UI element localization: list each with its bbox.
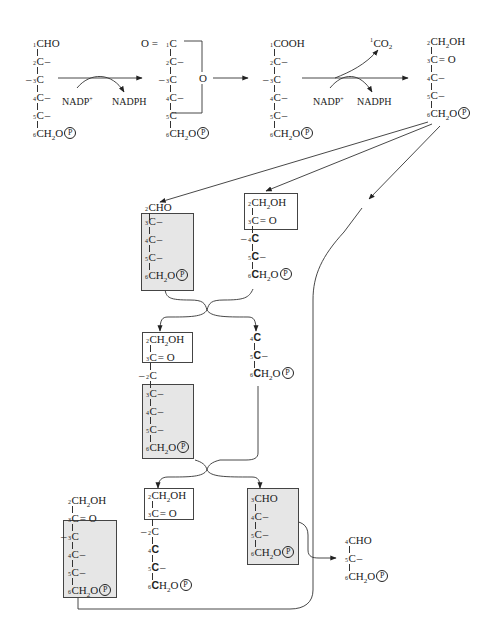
atom-group: C xyxy=(149,234,156,245)
atom-group: C xyxy=(431,90,438,101)
atom-group: COOH xyxy=(274,38,305,49)
carbon-number: 2 xyxy=(68,499,71,505)
bond-dash: – xyxy=(139,370,145,381)
atom-group: OH xyxy=(170,490,186,501)
brace-1-right-arrow xyxy=(207,310,256,331)
atom-group: O xyxy=(167,270,175,281)
carbonyl: = O xyxy=(160,508,177,519)
bond-dash: – xyxy=(282,56,288,67)
transaldolase-brace-2 xyxy=(195,460,220,470)
ribulose-5-phosphate: 2CH2OH 3C= O 4C– 5C– 6CH2OP xyxy=(427,36,470,119)
atom-group: CH xyxy=(149,270,164,281)
carbon-number: 6 xyxy=(145,274,148,280)
subscript: 2 xyxy=(165,449,169,455)
carbon-number: 6 xyxy=(251,551,254,557)
6-phosphoglucono-lactone: O = 1C 2C– –3C 4C– 5C 6CH2OP xyxy=(166,38,209,139)
carbon-number: 2 xyxy=(33,60,36,66)
carbon-number: 2 xyxy=(146,338,149,344)
long-return-path xyxy=(78,208,362,609)
bond-dash: – xyxy=(439,90,445,101)
atom-group: CHO xyxy=(149,202,172,213)
carbon-number: 2 xyxy=(145,206,148,212)
atom-group: C xyxy=(37,74,44,85)
carbon-number: 2 xyxy=(148,530,151,536)
subscript: 2 xyxy=(267,276,271,282)
bond-dash: – xyxy=(263,529,269,540)
atom-group: CH xyxy=(72,585,87,596)
nadp-curve-1 xyxy=(77,76,124,92)
atom-group: C xyxy=(254,368,262,379)
atom-group: CHO xyxy=(255,493,278,504)
carbon-number: 5 xyxy=(250,354,253,360)
bond-dash: – xyxy=(157,252,163,263)
carbon-number: 4 xyxy=(146,410,149,416)
bond-dash: – xyxy=(160,562,166,573)
bond-dash: – xyxy=(262,350,268,361)
atom-group: CHO xyxy=(349,535,372,546)
bond-dash: – xyxy=(158,424,164,435)
atom-group: C xyxy=(170,56,177,67)
phosphate-icon: P xyxy=(458,107,470,119)
atom-group: OH xyxy=(449,36,465,47)
atom-group: O xyxy=(273,368,281,379)
carbon-number: 3 xyxy=(270,78,273,84)
carbon-number: 1 xyxy=(166,42,169,48)
carbon-number: 2 xyxy=(427,40,430,46)
phosphate-icon: P xyxy=(99,584,111,596)
atom-group: C xyxy=(170,92,177,103)
carbon-number: 4 xyxy=(251,515,254,521)
ring-oxygen-label: O xyxy=(198,73,208,83)
atom-group: OH xyxy=(90,495,106,506)
atom-group: C xyxy=(252,269,260,280)
subscript: 2 xyxy=(269,375,273,381)
carbon-number: 6 xyxy=(33,132,36,138)
atom-group: O xyxy=(367,571,375,582)
carbon-number: 3 xyxy=(68,535,71,541)
ketose-c5: 2CH2OH 3C= O –4C 5C– 6CH2OP xyxy=(248,197,292,280)
bond-dash: – xyxy=(45,92,51,103)
carbon-number: 4 xyxy=(427,76,430,82)
phosphate-icon: P xyxy=(376,570,388,582)
atom-group: C xyxy=(152,526,159,537)
carbon-number: 3 xyxy=(427,58,430,64)
atom-group: CH xyxy=(150,442,165,453)
atom-group: C xyxy=(255,511,262,522)
carbon-number: 5 xyxy=(270,114,273,120)
bond-dash: – xyxy=(45,110,51,121)
bond-dash: – xyxy=(260,251,266,262)
carbon-number: 3 xyxy=(148,512,151,518)
carbonyl: = O xyxy=(439,54,456,65)
carbon-number: 6 xyxy=(166,132,169,138)
atom-group: C xyxy=(150,424,157,435)
aldose-c5-head: 2CHO xyxy=(145,202,172,213)
atom-group: O xyxy=(271,269,279,280)
atom-group: C xyxy=(274,74,281,85)
cofactor-text: NADP xyxy=(313,96,340,107)
carbon-number: 4 xyxy=(250,336,253,342)
atom-group: C xyxy=(152,544,160,555)
phosphate-icon: P xyxy=(177,441,189,453)
carbon-number: 4 xyxy=(248,237,251,243)
carbon-number: 3 xyxy=(251,497,254,503)
atom-group: C xyxy=(170,110,177,121)
phosphate-icon: P xyxy=(301,127,313,139)
ketose-c6-left: 2CH2OH 3C= O –3C 4C– 5C– 6CH2OP xyxy=(68,495,111,596)
phosphate-icon: P xyxy=(282,546,294,558)
atom-group: O xyxy=(273,547,281,558)
atom-group: C xyxy=(72,567,79,578)
atom-group: C xyxy=(170,74,177,85)
carbon-number: 3 xyxy=(145,220,148,226)
co2-label: 1CO2 xyxy=(370,38,392,48)
carbon-number: 2 xyxy=(270,60,273,66)
atom-group: CH xyxy=(252,197,267,208)
carbon-number: 6 xyxy=(345,575,348,581)
atom-group: O xyxy=(90,585,98,596)
bond-dash: – xyxy=(80,567,86,578)
bond-dash: – xyxy=(178,56,184,67)
carbon-number: 5 xyxy=(345,557,348,563)
carbon-number: 6 xyxy=(427,112,430,118)
atom-group: OH xyxy=(270,197,286,208)
cofactor-text: NADP xyxy=(62,96,89,107)
atom-group: C xyxy=(37,110,44,121)
atom-group: CH xyxy=(431,36,446,47)
